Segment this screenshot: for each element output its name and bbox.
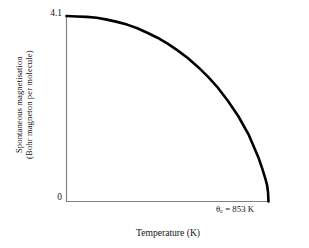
spontaneous-magnetisation-chart: Spontaneous magnetisation (Bohr magneton… bbox=[0, 0, 309, 248]
plot-area bbox=[0, 0, 309, 248]
magnetisation-curve bbox=[67, 16, 269, 202]
